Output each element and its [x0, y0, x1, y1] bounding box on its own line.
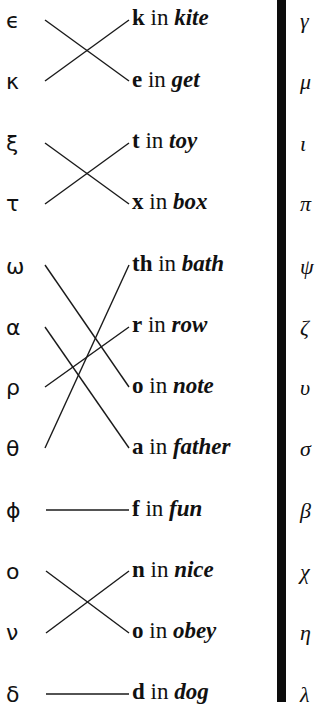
in-label: in — [144, 618, 173, 643]
example-word: dog — [174, 679, 209, 704]
sound-letter: d — [132, 679, 145, 704]
sound-letter: x — [132, 189, 144, 214]
sound-letter: o — [132, 373, 144, 398]
sound-letter: k — [132, 5, 145, 30]
greek-letter: ρ — [6, 377, 34, 399]
sound-item: o in note — [132, 374, 214, 398]
in-label: in — [144, 434, 173, 459]
sound-item: o in obey — [132, 619, 216, 643]
in-label: in — [145, 557, 174, 582]
sound-item: th in bath — [132, 252, 224, 276]
sound-letter: e — [132, 67, 142, 92]
sound-letter: r — [132, 312, 142, 337]
sound-letter: o — [132, 618, 144, 643]
example-word: box — [173, 189, 208, 214]
greek-letter: ζ — [300, 317, 326, 339]
greek-letter: ι — [300, 133, 326, 155]
sound-item: a in father — [132, 435, 230, 459]
example-word: note — [173, 373, 214, 398]
sound-item: e in get — [132, 68, 200, 92]
example-word: obey — [173, 618, 216, 643]
greek-letter: τ — [6, 193, 34, 215]
greek-letter: η — [300, 622, 326, 644]
sound-item: r in row — [132, 313, 207, 337]
example-word: bath — [182, 251, 224, 276]
in-label: in — [140, 496, 169, 521]
example-word: fun — [169, 496, 202, 521]
sound-item: x in box — [132, 190, 207, 214]
sound-letter: n — [132, 557, 145, 582]
greek-letter: π — [300, 193, 326, 215]
greek-letter: ϕ — [6, 500, 34, 522]
in-label: in — [145, 5, 174, 30]
sound-letter: a — [132, 434, 144, 459]
sound-item: n in nice — [132, 558, 214, 582]
example-word: nice — [174, 557, 214, 582]
greek-letter: δ — [6, 684, 34, 706]
line-omega-o — [45, 265, 129, 387]
sound-letter: f — [132, 496, 140, 521]
greek-letter: ω — [6, 256, 34, 278]
greek-letter: β — [300, 500, 326, 522]
divider-bar — [277, 0, 286, 702]
greek-letter: ο — [6, 561, 34, 583]
in-label: in — [144, 189, 173, 214]
greek-letter: κ — [6, 71, 34, 93]
greek-letter: ξ — [6, 133, 34, 155]
in-label: in — [142, 67, 171, 92]
sound-item: k in kite — [132, 6, 209, 30]
sound-item: f in fun — [132, 497, 202, 521]
example-word: get — [172, 67, 200, 92]
in-label: in — [145, 679, 174, 704]
in-label: in — [142, 312, 171, 337]
greek-letter: α — [6, 317, 34, 339]
sound-item: d in dog — [132, 680, 209, 704]
in-label: in — [140, 128, 169, 153]
greek-letter: χ — [300, 561, 326, 583]
greek-letter: μ — [300, 71, 326, 93]
line-alpha-a — [45, 327, 129, 448]
sound-letter: th — [132, 251, 152, 276]
example-word: row — [172, 312, 208, 337]
sound-letter: t — [132, 128, 140, 153]
greek-letter: ν — [6, 622, 34, 644]
example-word: toy — [169, 128, 197, 153]
example-word: kite — [174, 5, 209, 30]
line-theta-th — [45, 265, 129, 448]
greek-letter: ψ — [300, 256, 326, 278]
greek-letter: σ — [300, 438, 326, 460]
in-label: in — [152, 251, 181, 276]
greek-letter: θ — [6, 438, 34, 460]
in-label: in — [144, 373, 173, 398]
sound-item: t in toy — [132, 129, 197, 153]
greek-letter: υ — [300, 377, 326, 399]
example-word: father — [173, 434, 231, 459]
greek-letter: λ — [300, 684, 326, 706]
greek-letter: γ — [300, 10, 326, 32]
greek-letter: ϵ — [6, 10, 34, 32]
